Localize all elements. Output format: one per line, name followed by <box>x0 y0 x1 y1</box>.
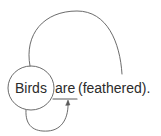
lower-arc-path <box>26 101 68 131</box>
upper-arc-path <box>29 11 122 74</box>
subject-circle <box>8 66 54 110</box>
diagram-canvas: Birds are (feathered). <box>0 0 161 136</box>
lower-arc-arrowhead <box>66 100 70 105</box>
annotation-overlay-svg <box>0 0 161 136</box>
